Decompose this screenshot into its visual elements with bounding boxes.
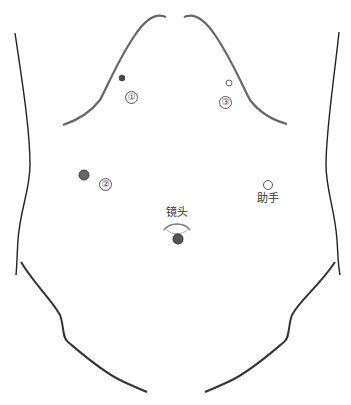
- port-1-label: ①: [125, 91, 138, 104]
- assistant-port-marker: [264, 181, 273, 190]
- port-2-marker: [79, 170, 89, 180]
- port-3-marker: [226, 80, 232, 86]
- port-1-label-text: ①: [127, 92, 135, 102]
- left-costal-margin: [63, 16, 166, 125]
- right-costal-margin: [184, 16, 287, 124]
- camera-label: 镜头: [166, 207, 188, 218]
- assistant-label: 助手: [257, 193, 279, 204]
- navel-lower-curve: [167, 230, 187, 234]
- abdomen-outline: [0, 0, 351, 405]
- navel-icon: [164, 224, 190, 230]
- right-inguinal-line: [205, 262, 335, 392]
- port-3-label-text: ③: [221, 97, 229, 107]
- left-inguinal-line: [21, 262, 147, 392]
- port-1-marker: [119, 75, 125, 81]
- left-flank-line: [15, 33, 30, 275]
- port-3-label: ③: [219, 96, 232, 109]
- right-flank-line: [326, 32, 340, 275]
- port-2-label-text: ②: [101, 179, 109, 189]
- camera-port-marker: [173, 234, 183, 244]
- port-2-label: ②: [99, 178, 112, 191]
